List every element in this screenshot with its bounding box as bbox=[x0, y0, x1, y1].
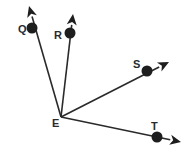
arrowhead-icon bbox=[169, 135, 181, 145]
ray-et: T bbox=[61, 117, 181, 145]
point-label-r: R bbox=[54, 29, 62, 41]
point-t bbox=[152, 132, 163, 143]
point-q bbox=[27, 23, 38, 34]
ray-line bbox=[61, 25, 72, 117]
ray-er: R bbox=[54, 14, 77, 117]
point-r bbox=[65, 28, 76, 39]
point-label-t: T bbox=[151, 120, 158, 132]
point-label-s: S bbox=[133, 58, 140, 70]
rays-layer: QRST bbox=[18, 6, 181, 145]
ray-es: S bbox=[61, 58, 169, 117]
ray-eq: Q bbox=[18, 6, 61, 117]
point-s bbox=[142, 66, 153, 77]
arrowhead-icon bbox=[27, 6, 37, 18]
point-label-q: Q bbox=[18, 23, 27, 35]
arrowhead-icon bbox=[67, 14, 77, 26]
vertex-label-e: E bbox=[52, 117, 59, 129]
ray-diagram: QRST E bbox=[0, 0, 191, 148]
